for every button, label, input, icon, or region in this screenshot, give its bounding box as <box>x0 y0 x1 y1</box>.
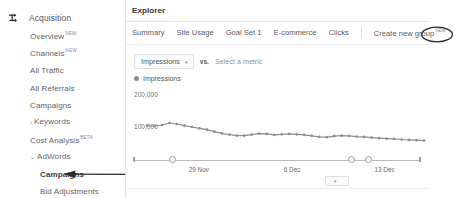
secondary-metric-selector[interactable]: Select a metric <box>215 57 263 66</box>
create-new-group-label: Create new group <box>374 28 434 37</box>
main-panel: Explorer SummarySite UsageGoal Set 1E-co… <box>125 0 430 198</box>
data-point[interactable] <box>325 136 328 139</box>
sidebar-item-cost-analysis[interactable]: Cost AnalysisBETA <box>30 135 93 145</box>
create-new-group-badge: NEW <box>435 28 446 33</box>
sidebar-item-adwords[interactable]: ⌄AdWords <box>30 152 71 161</box>
metric-selector-row: Impressions ▾ vs. Select a metric <box>134 54 262 69</box>
x-axis-tick-1: 6 Dec <box>284 166 301 173</box>
granularity-dropdown[interactable]: ▾ <box>325 176 349 186</box>
data-point[interactable] <box>385 137 388 140</box>
sidebar-item-all-traffic[interactable]: All Traffic <box>30 66 64 75</box>
sidebar-item-label: All Referrals <box>30 84 75 93</box>
data-point[interactable] <box>153 125 156 128</box>
data-point[interactable] <box>250 133 253 136</box>
sidebar-item-overview[interactable]: OverviewNEW <box>30 31 76 41</box>
sidebar-item-label: Campaigns <box>40 170 84 179</box>
bottom-divider <box>125 188 430 189</box>
sidebar-item-badge: NEW <box>66 48 77 53</box>
data-point[interactable] <box>415 139 418 142</box>
data-point[interactable] <box>400 138 403 141</box>
sidebar-item-label: Overview <box>30 32 64 41</box>
data-point[interactable] <box>333 135 336 138</box>
chevron-down-icon: ▾ <box>185 59 188 65</box>
date-range-handle-left[interactable] <box>169 156 176 163</box>
data-point[interactable] <box>273 134 276 137</box>
subtab-site-usage[interactable]: Site Usage <box>177 28 214 37</box>
sidebar-item-campaigns-sub[interactable]: Campaigns <box>40 170 84 179</box>
legend-swatch-impressions <box>134 76 139 81</box>
sidebar-item-label: Channels <box>30 49 65 58</box>
data-point[interactable] <box>258 132 261 135</box>
date-range-handle-mid-right[interactable] <box>365 156 372 163</box>
data-point[interactable] <box>198 127 201 130</box>
sidebar-item-all-referrals[interactable]: All Referrals <box>30 84 75 93</box>
data-point[interactable] <box>221 132 224 135</box>
sidebar-item-label: All Traffic <box>30 66 64 75</box>
x-axis-tick-0: 29 Nov <box>189 166 209 173</box>
data-point[interactable] <box>393 138 396 141</box>
chart-legend: Impressions <box>134 75 181 82</box>
subtab-divider <box>125 44 430 45</box>
data-point[interactable] <box>408 139 411 142</box>
data-point[interactable] <box>363 136 366 139</box>
data-point[interactable] <box>228 133 231 136</box>
date-range-slider-track[interactable] <box>133 160 421 161</box>
data-point[interactable] <box>348 135 351 138</box>
data-point[interactable] <box>265 133 268 136</box>
subtab-goal-set-1[interactable]: Goal Set 1 <box>226 28 262 37</box>
subtab-e-commerce[interactable]: E-commerce <box>274 28 317 37</box>
data-point[interactable] <box>176 123 179 126</box>
sidebar-item-bid-adjustments-sub[interactable]: Bid Adjustments <box>40 187 99 196</box>
sidebar-item-label: Campaigns <box>30 101 71 110</box>
sidebar-item-keywords[interactable]: ›Keywords <box>30 117 70 126</box>
subtab-list: SummarySite UsageGoal Set 1E-commerceCli… <box>132 27 446 38</box>
data-point[interactable] <box>280 133 283 136</box>
data-point[interactable] <box>243 134 246 137</box>
tab-explorer[interactable]: Explorer <box>132 6 165 15</box>
data-point[interactable] <box>235 134 238 137</box>
data-point[interactable] <box>288 133 291 136</box>
subtab-summary[interactable]: Summary <box>132 28 165 37</box>
acquisition-arrows-icon <box>8 11 21 24</box>
vs-label: vs. <box>200 58 209 65</box>
data-point[interactable] <box>295 133 298 136</box>
sidebar-header-label: Acquisition <box>29 13 71 23</box>
data-point[interactable] <box>318 136 321 139</box>
data-point[interactable] <box>423 139 426 142</box>
chevron-down-icon: ▾ <box>334 177 337 185</box>
chart-plot-area <box>125 86 430 164</box>
subtab-clicks[interactable]: Clicks <box>329 28 349 37</box>
data-point[interactable] <box>355 135 358 138</box>
data-point[interactable] <box>146 124 149 127</box>
sidebar-item-badge: BETA <box>80 135 92 140</box>
data-point[interactable] <box>378 137 381 140</box>
legend-label-impressions: Impressions <box>143 75 181 82</box>
data-point[interactable] <box>340 134 343 137</box>
primary-metric-dropdown[interactable]: Impressions ▾ <box>134 54 194 69</box>
create-new-group-button[interactable]: Create new groupNEW <box>374 28 446 38</box>
sidebar: Acquisition OverviewNEWChannelsNEWAll Tr… <box>0 0 125 198</box>
data-point[interactable] <box>191 126 194 129</box>
sidebar-item-badge: NEW <box>65 31 76 36</box>
sidebar-item-channels[interactable]: ChannelsNEW <box>30 48 77 58</box>
sidebar-item-label: Bid Adjustments <box>40 187 99 196</box>
data-point[interactable] <box>213 130 216 133</box>
primary-metric-label: Impressions <box>141 57 180 66</box>
sidebar-item-label: Keywords <box>34 117 70 126</box>
sidebar-header-acquisition[interactable]: Acquisition <box>8 11 71 24</box>
data-point[interactable] <box>206 128 209 131</box>
x-axis-tick-2: 13 Dec <box>374 166 394 173</box>
data-point[interactable] <box>183 124 186 127</box>
data-point[interactable] <box>310 135 313 138</box>
data-point[interactable] <box>303 134 306 137</box>
data-point[interactable] <box>161 124 164 127</box>
slider-track-start-cap <box>133 157 135 162</box>
sidebar-item-campaigns[interactable]: Campaigns <box>30 101 71 110</box>
tabstrip-divider <box>125 21 430 22</box>
impressions-line-chart: 200,000 100,000 <box>125 86 430 164</box>
chevron-down-icon: ⌄ <box>30 153 35 160</box>
sidebar-item-label: AdWords <box>37 152 70 161</box>
data-point[interactable] <box>168 122 171 125</box>
data-point[interactable] <box>370 136 373 139</box>
date-range-handle-mid-left[interactable] <box>348 156 355 163</box>
